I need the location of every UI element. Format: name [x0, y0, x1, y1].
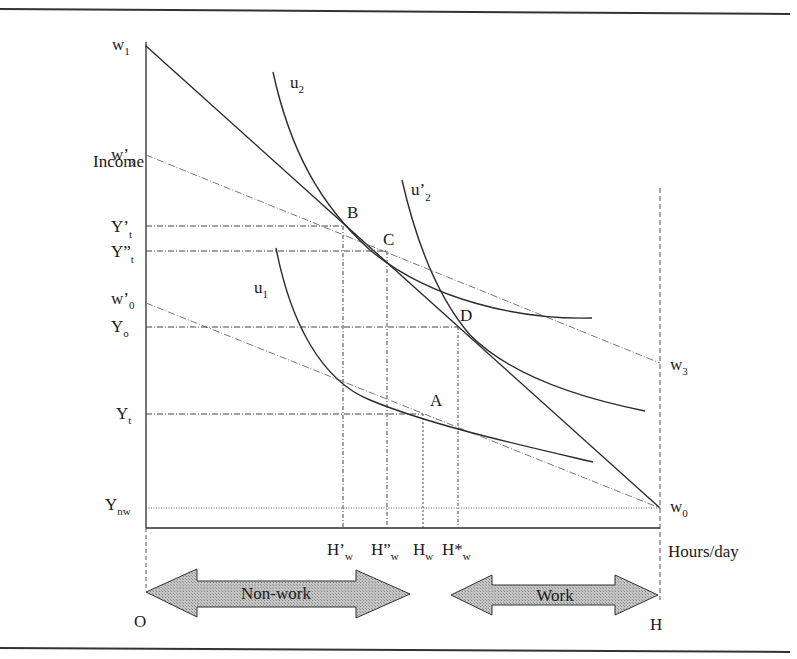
- x-axis-title: Hours/day: [668, 542, 739, 561]
- end-label-H: H: [650, 615, 662, 634]
- svg-text:w1: w1: [112, 35, 130, 57]
- svg-text:w3: w3: [670, 355, 688, 377]
- label-Hw-star: H*w: [442, 540, 471, 562]
- label-Yt-prime: Y’t: [111, 217, 132, 240]
- origin-label: O: [134, 612, 146, 631]
- svg-text:w0: w0: [670, 497, 688, 519]
- svg-text:Yt: Yt: [116, 404, 131, 426]
- work-label: Work: [536, 586, 574, 605]
- budget-line-w0prime-w0: [146, 303, 660, 508]
- svg-text:w’0: w’0: [111, 289, 135, 311]
- svg-text:Y”t: Y”t: [111, 242, 134, 265]
- svg-text:Ynw: Ynw: [105, 495, 131, 517]
- svg-text:u1: u1: [254, 278, 268, 300]
- budget-line-w1-w0: [146, 46, 660, 508]
- point-label-C: C: [383, 230, 394, 249]
- non-work-arrow: Non-work: [146, 569, 410, 618]
- labour-supply-diagram: Income w1 w’3 Y’t Y”t w’0 Yo Yt Ynw w3 w…: [0, 0, 797, 659]
- label-Hw: Hw: [413, 540, 433, 562]
- point-label-A: A: [430, 391, 443, 410]
- svg-text:H*w: H*w: [442, 540, 471, 562]
- svg-text:H”w: H”w: [371, 540, 399, 562]
- point-label-B: B: [347, 203, 358, 222]
- non-work-label: Non-work: [241, 584, 311, 603]
- svg-text:H’w: H’w: [327, 540, 353, 562]
- label-w0: w0: [670, 497, 688, 519]
- curve-u2prime: [402, 180, 645, 411]
- label-u2prime: u’2: [411, 180, 431, 203]
- work-arrow: Work: [451, 575, 658, 615]
- curve-u2: [273, 72, 592, 318]
- svg-text:Y’t: Y’t: [111, 217, 132, 240]
- label-u2: u2: [290, 73, 304, 95]
- label-w1: w1: [112, 35, 130, 57]
- label-w3: w3: [670, 355, 688, 377]
- label-w0prime: w’0: [111, 289, 135, 311]
- bottom-rule: [0, 648, 790, 652]
- label-Hw-prime: H’w: [327, 540, 353, 562]
- label-u1: u1: [254, 278, 268, 300]
- svg-text:Yo: Yo: [111, 317, 129, 339]
- svg-text:u2: u2: [290, 73, 304, 95]
- label-Ynw: Ynw: [105, 495, 131, 517]
- top-rule: [0, 9, 790, 14]
- label-Yt-dprime: Y”t: [111, 242, 134, 265]
- svg-text:u’2: u’2: [411, 180, 431, 203]
- label-Yt: Yt: [116, 404, 131, 426]
- svg-text:Hw: Hw: [413, 540, 433, 562]
- point-label-D: D: [460, 306, 472, 325]
- label-Hw-dprime: H”w: [371, 540, 399, 562]
- label-Yo: Yo: [111, 317, 129, 339]
